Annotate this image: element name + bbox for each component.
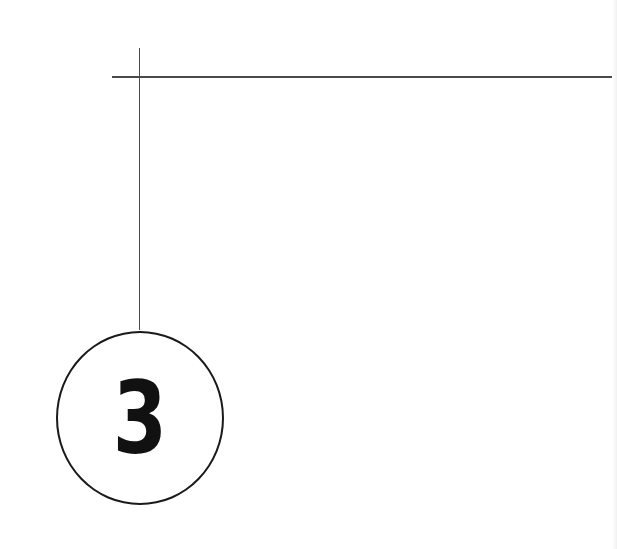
horizontal-leader-line xyxy=(112,76,612,78)
callout-number: 3 xyxy=(113,369,167,469)
vertical-leader-line xyxy=(139,48,141,330)
diagram-canvas: 3 xyxy=(0,0,617,549)
callout-marker: 3 xyxy=(56,331,224,505)
page-edge xyxy=(612,0,617,549)
